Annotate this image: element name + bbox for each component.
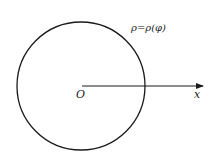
curve-equation-label: ρ=ρ(φ)	[130, 22, 166, 33]
polar-diagram: ρ=ρ(φ) O x	[0, 0, 211, 166]
x-axis-label: x	[194, 88, 201, 101]
origin-label: O	[76, 88, 85, 101]
